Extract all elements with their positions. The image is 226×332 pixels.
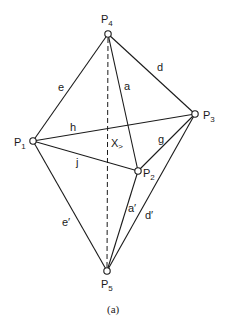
label-edge-e: e	[58, 81, 64, 93]
label-p3: P3	[203, 109, 215, 124]
edge-a-prime	[107, 171, 138, 271]
label-edge-a-prime: a′	[128, 202, 136, 214]
edge-d-prime	[107, 114, 195, 271]
label-edge-d: d	[157, 61, 163, 73]
vertex-p2	[135, 168, 141, 174]
label-p2: P2	[143, 167, 155, 182]
label-edge-h: h	[70, 121, 76, 133]
vertex-p5	[104, 268, 110, 274]
dashed-axis-p4-p5	[107, 38, 108, 267]
edge-d	[108, 34, 195, 114]
label-edge-a: a	[124, 80, 131, 92]
vertex-p3	[192, 111, 198, 117]
label-edge-j: j	[75, 156, 78, 168]
label-axis-x: X>	[111, 137, 123, 151]
vertex-p4	[105, 31, 111, 37]
label-edge-e-prime: e′	[62, 216, 70, 228]
label-edge-d-prime: d′	[145, 209, 153, 221]
label-p1: P1	[14, 136, 26, 151]
label-edge-g: g	[158, 133, 164, 145]
polyhedron-diagram: P4 P1 P3 P2 P5 e d a h j g e′ a′ d′ X> (…	[0, 0, 226, 332]
label-p5: P5	[101, 278, 113, 293]
vertex-p1	[30, 138, 36, 144]
label-p4: P4	[101, 13, 113, 28]
edge-e-prime	[33, 141, 107, 271]
figure-caption: (a)	[107, 303, 120, 316]
